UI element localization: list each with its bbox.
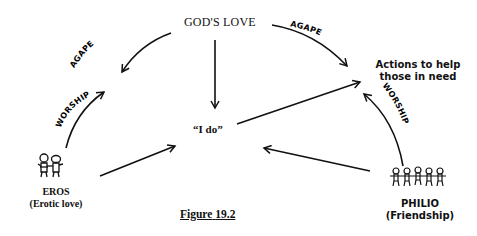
philio-to-ido-arrow xyxy=(264,148,370,171)
eros-to-ido-arrow xyxy=(100,146,175,176)
ido-to-actions-arrow xyxy=(237,82,360,124)
agape-right-label: AGAPE xyxy=(290,19,323,37)
gods-love-label: GOD'S LOVE xyxy=(184,15,256,29)
actions-label-line1: Actions to help xyxy=(368,59,468,71)
philio-friends-icon xyxy=(390,167,446,186)
actions-node: Actions to help those in need xyxy=(368,59,468,82)
eros-couple-icon xyxy=(38,154,63,177)
figure-caption: Figure 19.2 xyxy=(180,208,235,221)
agape-left-arrow xyxy=(122,33,171,72)
philio-node: PHILIO (Friendship) xyxy=(380,198,460,221)
eros-name: EROS xyxy=(20,186,92,198)
caption-number: 19.2 xyxy=(215,208,235,220)
eros-subtitle: (Erotic love) xyxy=(20,198,92,210)
philio-name: PHILIO xyxy=(380,198,460,210)
gods-love-node: GOD'S LOVE xyxy=(184,16,256,30)
i-do-node: “I do” xyxy=(193,123,223,136)
actions-label-line2: those in need xyxy=(368,71,468,83)
i-do-label: “I do” xyxy=(193,123,223,135)
agape-left-label: AGAPE xyxy=(68,39,95,70)
caption-label: Figure xyxy=(180,208,212,220)
eros-node: EROS (Erotic love) xyxy=(20,186,92,209)
philio-subtitle: (Friendship) xyxy=(380,210,460,222)
